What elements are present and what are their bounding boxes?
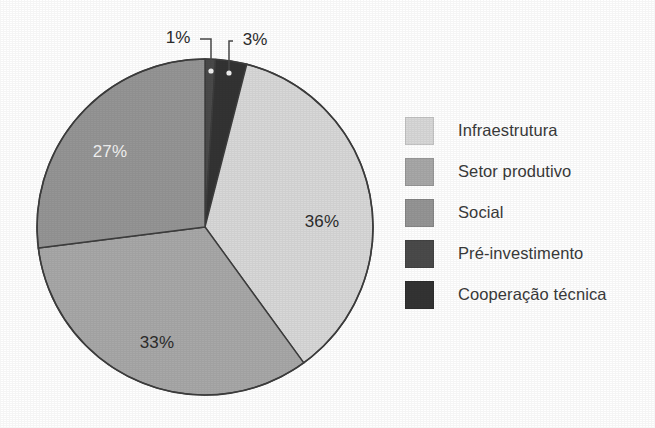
pie-slices	[37, 59, 373, 395]
legend-item-label: Cooperação técnica	[458, 285, 607, 304]
legend-item[interactable]: Social	[405, 192, 650, 233]
pie-chart: 1%3%36%33%27%	[0, 0, 400, 428]
legend-item[interactable]: Infraestrutura	[405, 110, 650, 151]
legend-swatch	[405, 199, 434, 227]
leader-line-endpoint	[226, 70, 231, 75]
legend-item-label: Setor produtivo	[458, 162, 571, 181]
pie-slice[interactable]	[37, 59, 205, 248]
chart-legend: InfraestruturaSetor produtivoSocialPré-i…	[405, 110, 650, 315]
legend-item-label: Infraestrutura	[458, 121, 558, 140]
pie-chart-page: 1%3%36%33%27% InfraestruturaSetor produt…	[0, 0, 655, 428]
legend-swatch	[405, 158, 434, 186]
legend-swatch	[405, 281, 434, 309]
legend-item[interactable]: Cooperação técnica	[405, 274, 650, 315]
pie-svg	[0, 0, 400, 428]
legend-item[interactable]: Pré-investimento	[405, 233, 650, 274]
legend-swatch	[405, 117, 434, 145]
leader-line-endpoint	[208, 68, 213, 73]
legend-swatch	[405, 240, 434, 268]
legend-item[interactable]: Setor produtivo	[405, 151, 650, 192]
legend-item-label: Social	[458, 203, 504, 222]
legend-item-label: Pré-investimento	[458, 244, 583, 263]
